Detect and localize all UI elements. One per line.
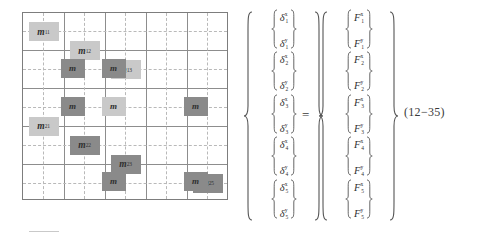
- grid-guide-vline: [166, 13, 167, 199]
- matrix-cell-r1c1: m11: [29, 22, 59, 41]
- force-group-4: Fx4Fy4: [327, 137, 391, 179]
- delta-x-5: δx5: [280, 175, 288, 201]
- force-x-4: Fx4: [354, 132, 364, 158]
- force-y-5: Fy5: [354, 201, 364, 227]
- matrix-cell-overlap-r3c5: m: [184, 97, 208, 116]
- grid-guide-hline: [23, 145, 227, 146]
- force-inner-brace-left-5: [345, 179, 352, 223]
- force-inner-brace-right-5: [366, 179, 373, 223]
- force-group-2: Fx2Fy2: [327, 52, 391, 94]
- matrix-cell-overlap-r5c5: m: [184, 172, 208, 191]
- delta-x-2: δx2: [280, 47, 288, 73]
- force-x-1: Fx1: [354, 5, 364, 31]
- delta-inner-brace-left-4: [271, 136, 278, 180]
- delta-x-1: δx1: [280, 5, 288, 31]
- force-vector: Fx1Fy1Fx2Fy2Fx3Fy3Fx4Fy4Fx5Fy5: [318, 10, 398, 222]
- equation-figure: m11m12m13m21mm22mm23m25m31mm32mm33m34mm3…: [0, 0, 486, 232]
- matrix-cell-r3c1: m31: [29, 231, 59, 233]
- delta-group-5: δx5δy5: [252, 180, 316, 222]
- force-inner-brace-left-4: [345, 136, 352, 180]
- delta-y-5: δy5: [280, 201, 288, 227]
- force-inner-brace-right-1: [366, 9, 373, 53]
- matrix-cell-overlap-r3c2: m: [61, 97, 85, 116]
- grid-vline: [146, 13, 147, 199]
- matrix-cell-overlap-r2c3: m: [102, 59, 126, 78]
- delta-inner-brace-right-3: [290, 94, 297, 138]
- delta-group-1: δx1δy1: [252, 10, 316, 52]
- matrix-cell-r1c2: m12: [70, 41, 100, 60]
- delta-inner-brace-left-1: [271, 9, 278, 53]
- force-inner-brace-left-2: [345, 51, 352, 95]
- force-inner-brace-right-2: [366, 51, 373, 95]
- force-pairs: Fx1Fy1Fx2Fy2Fx3Fy3Fx4Fy4Fx5Fy5: [327, 10, 391, 222]
- equation-number: (12−35): [404, 105, 445, 120]
- matrix-cell-overlap-r2c2: m: [61, 59, 85, 78]
- force-inner-brace-left-1: [345, 9, 352, 53]
- force-x-2: Fx2: [354, 47, 364, 73]
- delta-x-3: δx3: [280, 90, 288, 116]
- delta-inner-brace-right-5: [290, 179, 297, 223]
- matrix-cell-overlap-r3c3: m: [102, 97, 126, 116]
- force-group-1: Fx1Fy1: [327, 10, 391, 52]
- matrix-cell-r2c2: m22: [70, 136, 100, 155]
- equals-sign: =: [302, 107, 309, 123]
- delta-inner-brace-right-2: [290, 51, 297, 95]
- delta-inner-brace-right-4: [290, 136, 297, 180]
- coefficient-matrix: m11m12m13m21mm22mm23m25m31mm32mm33m34mm3…: [22, 12, 228, 200]
- delta-inner-brace-right-1: [290, 9, 297, 53]
- force-inner-brace-left-3: [345, 94, 352, 138]
- delta-group-2: δx2δy2: [252, 52, 316, 94]
- matrix-cell-r2c1: m21: [29, 117, 59, 136]
- force-inner-brace-right-3: [366, 94, 373, 138]
- displacement-vector: δx1δy1δx2δy2δx3δy3δx4δy4δx5δy5: [243, 10, 323, 222]
- delta-inner-brace-left-5: [271, 179, 278, 223]
- force-group-5: Fx5Fy5: [327, 180, 391, 222]
- force-x-3: Fx3: [354, 90, 364, 116]
- force-group-3: Fx3Fy3: [327, 95, 391, 137]
- force-x-5: Fx5: [354, 175, 364, 201]
- force-inner-brace-right-4: [366, 136, 373, 180]
- delta-inner-brace-left-3: [271, 94, 278, 138]
- matrix-cell-overlap-r5c3: m: [102, 172, 126, 191]
- outer-brace-right-force: [388, 10, 399, 222]
- delta-group-4: δx4δy4: [252, 137, 316, 179]
- delta-x-4: δx4: [280, 132, 288, 158]
- delta-inner-brace-left-2: [271, 51, 278, 95]
